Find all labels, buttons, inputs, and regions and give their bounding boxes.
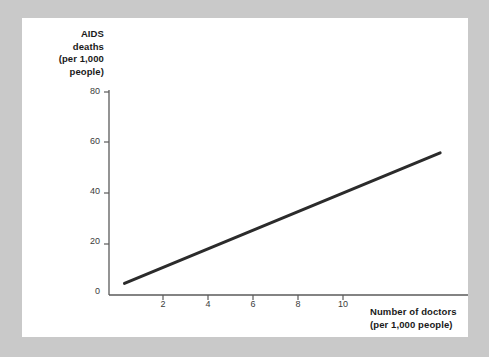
x-tick-marks [163,295,343,300]
plot-canvas [22,18,468,337]
chart-card: AIDS deaths (per 1,000 people) Number of… [22,18,468,337]
data-line-aids-deaths [124,153,440,283]
y-tick-marks [104,92,109,244]
page-root: AIDS deaths (per 1,000 people) Number of… [0,0,489,357]
chart-figure: AIDS deaths (per 1,000 people) Number of… [22,18,468,337]
